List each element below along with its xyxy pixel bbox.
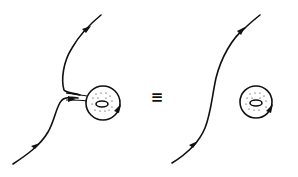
- left-torus-hole: [96, 101, 108, 107]
- right-panel: [172, 15, 273, 163]
- right-torus-dots: [245, 92, 266, 110]
- left-torus-outer: [86, 86, 120, 120]
- arrow-left-torus-icon: [114, 104, 121, 113]
- left-upper-curve: [63, 15, 101, 95]
- arrow-lower-right-icon: [189, 141, 198, 148]
- left-lower-curve: [13, 97, 78, 164]
- left-torus-dots: [91, 92, 112, 111]
- equivalence-symbol: ≡: [149, 88, 165, 106]
- arrow-right-torus-icon: [266, 104, 273, 113]
- left-panel: [13, 15, 121, 164]
- right-torus-hole: [250, 100, 262, 106]
- arrow-lower-left-icon: [31, 143, 40, 149]
- right-torus-outer: [240, 86, 272, 118]
